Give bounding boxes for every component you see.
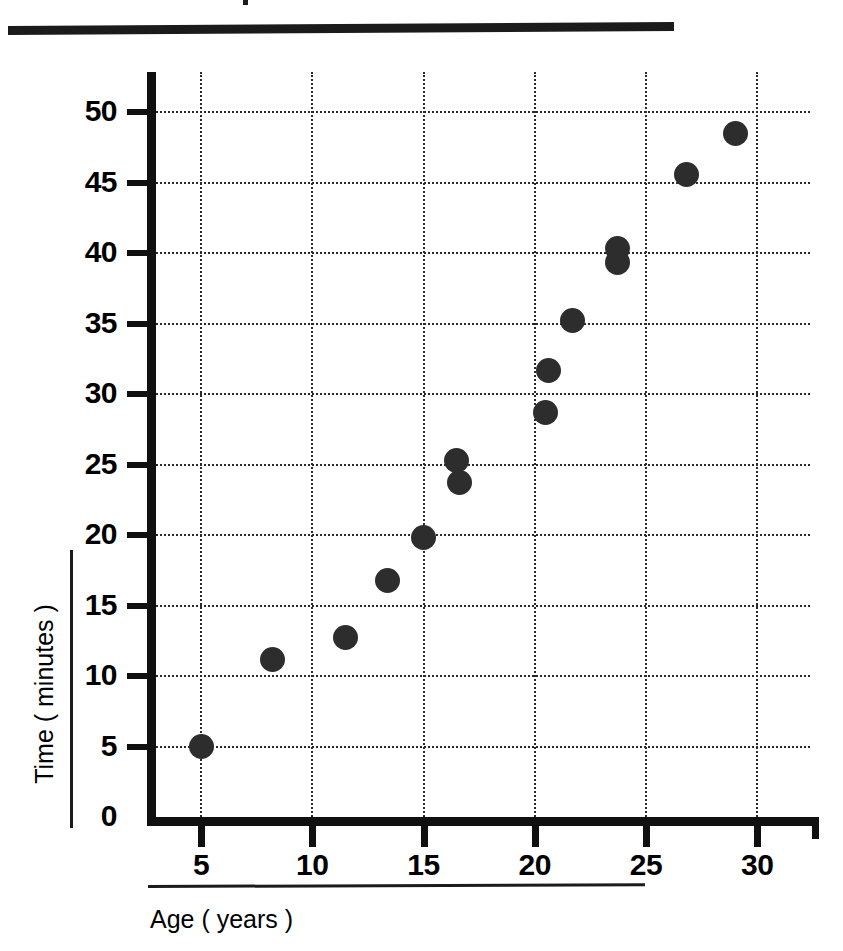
data-point (723, 121, 748, 146)
data-point (375, 568, 400, 593)
x-axis-tick (532, 825, 539, 847)
y-axis-tick-label: 35 (17, 308, 117, 338)
x-axis-tick-label: 30 (707, 850, 807, 880)
gridline-horizontal (151, 111, 810, 113)
gridline-horizontal (151, 252, 810, 254)
x-axis-tick (643, 825, 650, 847)
y-axis-tick (127, 321, 149, 327)
y-axis-title-group: Time ( minutes ) (10, 560, 50, 840)
x-axis-tick (754, 825, 761, 847)
x-axis-title: Age ( years ) (150, 905, 293, 933)
gridline-horizontal (151, 675, 810, 677)
data-point (536, 358, 561, 383)
data-point (333, 625, 358, 650)
x-axis-tick-label: 20 (485, 850, 585, 880)
y-axis-tick (127, 603, 149, 609)
gridline-vertical (645, 72, 647, 817)
gridline-horizontal (151, 182, 810, 184)
y-axis-tick-label: 50 (17, 96, 117, 126)
x-axis-end-cap (812, 817, 819, 839)
gridline-vertical (423, 72, 425, 817)
data-point (444, 448, 469, 473)
data-point (260, 647, 285, 672)
gridline-horizontal (151, 746, 810, 748)
x-axis-tick-label: 5 (151, 850, 251, 880)
gridline-vertical (200, 72, 202, 817)
scatter-plot-figure: 0510152025303540455051015202530 Time ( m… (0, 0, 843, 951)
x-axis-spine (147, 817, 819, 826)
gridline-horizontal (151, 534, 810, 536)
y-axis-tick-label: 25 (17, 449, 117, 479)
y-axis-tick-label: 40 (17, 237, 117, 267)
y-axis-tick-label: 20 (17, 519, 117, 549)
gridline-horizontal (151, 605, 810, 607)
y-axis-title-rule (70, 550, 73, 828)
data-point (674, 162, 699, 187)
plot-area: 0510152025303540455051015202530 (0, 0, 843, 951)
gridline-vertical (756, 72, 758, 817)
y-axis-tick-label: 30 (17, 378, 117, 408)
data-point (533, 400, 558, 425)
x-axis-tick (421, 825, 428, 847)
data-point (189, 734, 214, 759)
data-point (411, 525, 436, 550)
gridline-vertical (534, 72, 536, 817)
data-point (605, 250, 630, 275)
y-axis-tick (127, 250, 149, 256)
y-axis-tick (127, 391, 149, 397)
gridline-horizontal (151, 464, 810, 466)
y-axis-tick (127, 744, 149, 750)
gridline-vertical (311, 72, 313, 817)
gridline-horizontal (151, 323, 810, 325)
y-axis-tick (127, 462, 149, 468)
x-axis-tick (309, 825, 316, 847)
y-axis-tick (127, 532, 149, 538)
y-axis-tick-label: 45 (17, 167, 117, 197)
y-axis-tick (127, 180, 149, 186)
x-axis-tick-label: 15 (374, 850, 474, 880)
data-point (560, 308, 585, 333)
y-axis-title: Time ( minutes ) (30, 564, 58, 824)
x-axis-tick (198, 825, 205, 847)
gridline-horizontal (151, 393, 810, 395)
x-axis-tick-label: 25 (596, 850, 696, 880)
y-axis-tick (127, 109, 149, 115)
y-axis-tick (127, 673, 149, 679)
x-axis-tick-label: 10 (262, 850, 362, 880)
data-point (447, 470, 472, 495)
